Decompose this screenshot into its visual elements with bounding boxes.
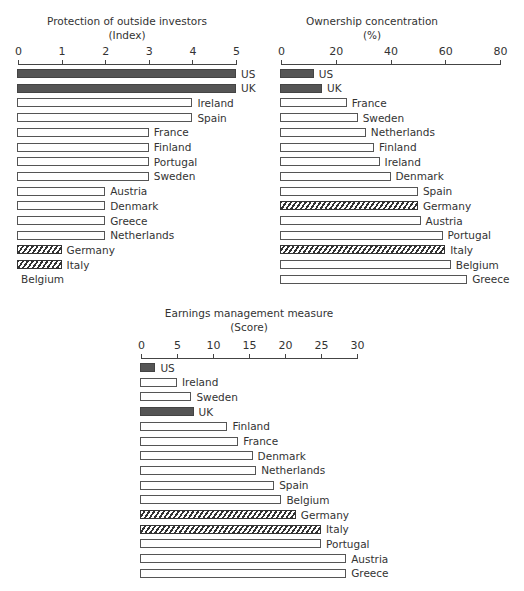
bar-label-greece: Greece xyxy=(110,215,147,227)
bar-label-us: US xyxy=(241,68,255,80)
bar-us xyxy=(140,363,155,372)
bar-germany xyxy=(140,510,296,519)
bar-austria xyxy=(280,216,421,225)
bar-label-portugal: Portugal xyxy=(448,229,492,241)
x-axis-tick xyxy=(213,354,214,359)
bar-label-denmark: Denmark xyxy=(110,200,158,212)
bar-belgium xyxy=(140,495,281,504)
chart-unit-text: (Index) xyxy=(18,28,236,42)
x-axis-tick-label: 60 xyxy=(439,45,453,58)
bar-label-uk: UK xyxy=(241,82,256,94)
bar-label-ireland: Ireland xyxy=(385,156,421,168)
bar-label-sweden: Sweden xyxy=(154,170,196,182)
bar-label-denmark: Denmark xyxy=(396,170,444,182)
bar-label-netherlands: Netherlands xyxy=(371,126,435,138)
x-axis-tick xyxy=(141,354,142,359)
x-axis-tick-label: 15 xyxy=(243,339,257,352)
bar-germany xyxy=(280,201,418,210)
bar-label-netherlands: Netherlands xyxy=(110,229,174,241)
bar-label-germany: Germany xyxy=(423,200,471,212)
bar-label-italy: Italy xyxy=(450,244,473,256)
bar-uk xyxy=(280,84,322,93)
bar-germany xyxy=(17,245,62,254)
bar-label-finland: Finland xyxy=(154,141,192,153)
bar-spain xyxy=(140,481,274,490)
chart-title: Ownership concentration(%) xyxy=(262,14,482,42)
bar-label-ireland: Ireland xyxy=(182,376,218,388)
x-axis-tick xyxy=(336,60,337,65)
x-axis-tick xyxy=(500,60,501,65)
x-axis-tick-label: 4 xyxy=(189,45,196,58)
bar-label-austria: Austria xyxy=(351,553,388,565)
chart-title-text: Protection of outside investors xyxy=(18,14,236,28)
bar-label-us: US xyxy=(160,362,174,374)
bar-label-us: US xyxy=(319,68,333,80)
bar-netherlands xyxy=(280,128,366,137)
bar-france xyxy=(140,437,238,446)
x-axis-tick-label: 1 xyxy=(59,45,66,58)
x-axis-tick-label: 30 xyxy=(351,339,365,352)
bar-label-sweden: Sweden xyxy=(196,391,238,403)
x-axis-tick xyxy=(285,354,286,359)
bar-italy xyxy=(140,525,321,534)
x-axis-tick-label: 10 xyxy=(207,339,221,352)
x-axis-tick xyxy=(445,60,446,65)
bar-denmark xyxy=(17,201,105,210)
bar-label-spain: Spain xyxy=(279,479,308,491)
x-axis-tick xyxy=(62,60,63,65)
x-axis-tick-label: 40 xyxy=(384,45,398,58)
bar-greece xyxy=(280,275,467,284)
bar-label-belgium: Belgium xyxy=(286,494,329,506)
bar-label-belgium: Belgium xyxy=(21,273,64,285)
bar-italy xyxy=(280,245,445,254)
bar-us xyxy=(280,69,314,78)
bar-label-uk: UK xyxy=(199,406,214,418)
bar-italy xyxy=(17,260,62,269)
x-axis-tick-label: 20 xyxy=(279,339,293,352)
chart-title: Earnings management measure(Score) xyxy=(141,306,357,334)
bar-austria xyxy=(17,187,105,196)
x-axis-tick-label: 80 xyxy=(494,45,508,58)
chart-unit-text: (Score) xyxy=(141,320,357,334)
bar-portugal xyxy=(280,231,443,240)
bar-austria xyxy=(140,554,346,563)
bar-us xyxy=(17,69,236,78)
bar-label-france: France xyxy=(352,97,387,109)
bar-label-spain: Spain xyxy=(423,185,452,197)
bar-label-ireland: Ireland xyxy=(197,97,233,109)
bar-denmark xyxy=(140,451,253,460)
x-axis-tick xyxy=(321,354,322,359)
x-axis-tick-label: 0 xyxy=(138,339,145,352)
x-axis-tick-label: 5 xyxy=(174,339,181,352)
bar-portugal xyxy=(17,157,149,166)
bar-label-portugal: Portugal xyxy=(326,538,370,550)
bar-label-austria: Austria xyxy=(110,185,147,197)
bar-label-greece: Greece xyxy=(472,273,509,285)
bar-france xyxy=(17,128,149,137)
chart-title-text: Ownership concentration xyxy=(262,14,482,28)
bar-ireland xyxy=(140,378,177,387)
x-axis-tick-label: 0 xyxy=(278,45,285,58)
bar-france xyxy=(280,98,347,107)
bar-label-greece: Greece xyxy=(351,567,388,579)
bar-uk xyxy=(17,84,236,93)
x-axis-tick xyxy=(357,354,358,359)
chart-title: Protection of outside investors(Index) xyxy=(18,14,236,42)
bar-greece xyxy=(17,216,105,225)
bar-finland xyxy=(140,422,227,431)
bar-finland xyxy=(17,143,149,152)
bar-label-austria: Austria xyxy=(426,215,463,227)
x-axis-tick-label: 3 xyxy=(146,45,153,58)
x-axis-tick xyxy=(236,60,237,65)
x-axis-tick xyxy=(18,60,19,65)
bar-spain xyxy=(17,113,192,122)
chart-unit-text: (%) xyxy=(262,28,482,42)
bar-netherlands xyxy=(140,466,256,475)
chart-title-text: Earnings management measure xyxy=(141,306,357,320)
bar-label-france: France xyxy=(154,126,189,138)
x-axis-tick-label: 2 xyxy=(102,45,109,58)
bar-belgium xyxy=(280,260,451,269)
x-axis-line xyxy=(18,64,237,65)
bar-label-uk: UK xyxy=(327,82,342,94)
x-axis-tick-label: 5 xyxy=(233,45,240,58)
